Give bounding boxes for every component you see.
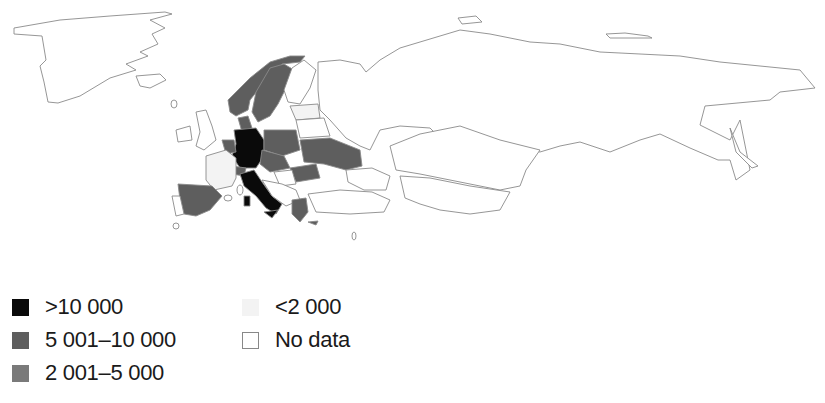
region-greenland xyxy=(14,12,172,103)
map-legend: >10 000 5 001–10 000 2 001–5 000 <2 000 … xyxy=(0,290,825,403)
region-malta xyxy=(352,232,356,240)
legend-label: >10 000 xyxy=(45,294,123,320)
legend-item-gt-10000: >10 000 xyxy=(12,295,123,319)
legend-swatch-black xyxy=(12,299,29,316)
region-canary xyxy=(173,223,179,229)
region-faroe xyxy=(171,100,177,108)
region-caucasus xyxy=(346,168,390,190)
legend-swatch-white xyxy=(242,332,259,349)
region-balearic xyxy=(224,195,232,201)
region-baltics xyxy=(290,104,320,120)
legend-item-5001-10000: 5 001–10 000 xyxy=(12,328,176,352)
region-corsica xyxy=(237,185,243,195)
legend-item-no-data: No data xyxy=(242,328,350,352)
region-cyprus xyxy=(308,221,318,225)
region-arctic-islands xyxy=(606,33,652,38)
region-germany xyxy=(232,128,264,168)
region-turkey xyxy=(308,190,390,214)
region-iceland xyxy=(136,74,166,88)
legend-label: 5 001–10 000 xyxy=(45,327,176,353)
legend-item-lt-2000: <2 000 xyxy=(242,295,341,319)
legend-label: 2 001–5 000 xyxy=(45,360,164,386)
region-sardinia xyxy=(244,196,250,206)
region-novaya-zemlya xyxy=(458,16,482,24)
legend-item-2001-5000: 2 001–5 000 xyxy=(12,361,164,385)
region-greece xyxy=(292,198,308,222)
region-belarus xyxy=(296,118,330,138)
region-ireland xyxy=(176,126,192,142)
legend-swatch-dark-gray xyxy=(12,332,29,349)
choropleth-map xyxy=(0,0,825,260)
region-spain xyxy=(178,184,222,216)
legend-swatch-light xyxy=(242,299,259,316)
region-france xyxy=(206,150,236,190)
region-uk xyxy=(196,110,216,150)
legend-label: <2 000 xyxy=(275,294,341,320)
legend-swatch-gray xyxy=(12,365,29,382)
legend-label: No data xyxy=(275,327,350,353)
